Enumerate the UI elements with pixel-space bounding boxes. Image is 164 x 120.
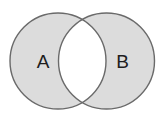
venn-diagram: A B <box>0 0 164 120</box>
set-b-label: B <box>116 51 129 72</box>
set-a-label: A <box>37 51 50 72</box>
